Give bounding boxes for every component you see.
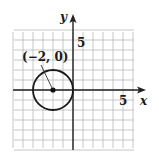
annotation-label: (−2, 0) bbox=[22, 50, 68, 64]
y-tick-label: 5 bbox=[77, 36, 85, 50]
coordinate-plane: (−2, 0) y 5 5 x bbox=[0, 0, 159, 155]
center-point bbox=[50, 87, 55, 92]
y-axis-label: y bbox=[59, 10, 68, 24]
x-tick-label: 5 bbox=[119, 94, 127, 108]
x-axis-label: x bbox=[139, 94, 148, 108]
